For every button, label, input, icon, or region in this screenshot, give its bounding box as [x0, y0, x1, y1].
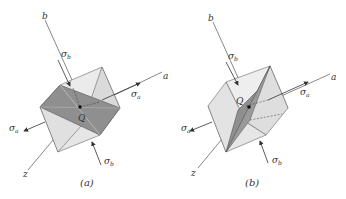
- sigma-a-left-arrow: [24, 122, 45, 131]
- sigma-b-top-label: σ b: [61, 49, 71, 60]
- diagram-canvas: Q b a z σ b σ a σ a σ b (a): [0, 0, 346, 199]
- sigma-b-top-label: σ b: [228, 51, 238, 62]
- axis-b-line: [213, 22, 240, 82]
- sigma-a-right-label: σ a: [300, 87, 310, 98]
- svg-text:a: a: [306, 91, 310, 98]
- svg-text:a: a: [187, 127, 191, 134]
- svg-text:b: b: [67, 53, 71, 60]
- caption-b: (b): [245, 177, 259, 188]
- point-q-label: Q: [236, 96, 244, 106]
- sigma-b-bottom-label: σ b: [104, 156, 114, 167]
- point-q: [247, 105, 251, 109]
- svg-text:b: b: [110, 160, 114, 167]
- sigma-a-left-label: σ a: [9, 123, 19, 134]
- axis-a-label: a: [163, 71, 168, 81]
- axis-b-label: b: [42, 11, 48, 21]
- svg-text:b: b: [278, 159, 282, 166]
- figure-a: Q b a z σ b σ a σ a σ b (a): [9, 11, 168, 188]
- sigma-a-right-label: σ a: [131, 89, 141, 100]
- sigma-b-bottom-label: σ b: [272, 155, 282, 166]
- sigma-b-top-arrow: [58, 60, 70, 86]
- sigma-a-left-arrow: [190, 122, 212, 131]
- sigma-b-bottom-arrow: [92, 142, 101, 165]
- point-q-label: Q: [78, 113, 86, 123]
- svg-text:b: b: [234, 55, 238, 62]
- figure-b: Q b a z σ b σ a σ a σ b (b): [181, 13, 336, 188]
- axis-b-label: b: [208, 13, 214, 23]
- axis-b-line: [45, 20, 72, 80]
- svg-text:a: a: [137, 93, 141, 100]
- svg-text:a: a: [15, 127, 19, 134]
- axis-z-label: z: [190, 168, 196, 178]
- point-q: [78, 105, 82, 109]
- axis-z-label: z: [22, 169, 28, 179]
- sigma-a-left-label: σ a: [181, 123, 191, 134]
- sigma-b-bottom-arrow: [260, 141, 268, 163]
- caption-a: (a): [80, 177, 94, 188]
- axis-a-label: a: [331, 72, 336, 82]
